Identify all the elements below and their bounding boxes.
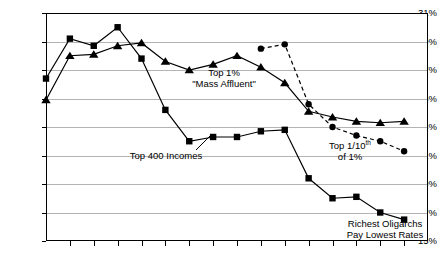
series-3 <box>258 41 408 154</box>
data-point-marker <box>282 127 288 133</box>
data-point-marker <box>280 79 289 86</box>
data-point-marker <box>353 132 359 138</box>
annotation-line-1: Top 1/10th <box>329 140 371 151</box>
annotation-line-1: Top 400 Incomes <box>130 150 202 161</box>
data-point-marker <box>305 101 311 107</box>
data-point-marker <box>114 24 120 30</box>
data-point-marker <box>329 124 335 130</box>
data-point-marker <box>258 128 264 134</box>
annotation-line-2: "Mass Affluent" <box>192 78 256 89</box>
data-point-marker <box>91 43 97 49</box>
data-point-marker <box>67 35 73 41</box>
annotation-line-1: Richest Oligarchs <box>347 218 424 229</box>
data-point-marker <box>186 138 192 144</box>
chart-container: 15%17%19%21%23%25%27%29%31% Top 1% "Mass… <box>0 0 437 253</box>
annotation-ordinal-suffix: th <box>366 139 371 146</box>
annotation-top-tenth-of-1-percent: Top 1/10th of 1% <box>329 140 371 162</box>
data-point-marker <box>305 175 311 181</box>
data-point-marker <box>353 194 359 200</box>
data-point-marker <box>304 107 313 114</box>
annotation-line-2: of 1% <box>329 151 371 162</box>
data-point-marker <box>329 195 335 201</box>
annotation-top-1-percent: Top 1% "Mass Affluent" <box>192 67 256 89</box>
data-point-marker <box>138 55 144 61</box>
data-point-marker <box>41 96 50 103</box>
data-point-marker <box>377 138 383 144</box>
data-point-marker <box>137 39 146 46</box>
annotation-top-400-incomes: Top 400 Incomes <box>130 150 202 161</box>
data-point-marker <box>43 75 49 81</box>
data-point-marker <box>232 52 241 59</box>
series-line <box>261 44 404 151</box>
data-point-marker <box>377 209 383 215</box>
data-point-marker <box>256 63 265 70</box>
annotation-line-1: Top 1% <box>192 67 256 78</box>
series-line <box>46 27 404 219</box>
annotation-leader-line <box>196 134 212 150</box>
data-point-marker <box>258 45 264 51</box>
data-point-marker <box>401 148 407 154</box>
data-point-marker <box>282 41 288 47</box>
annotation-richest-oligarchs: Richest Oligarchs Pay Lowest Rates <box>347 218 424 240</box>
data-point-marker <box>234 134 240 140</box>
data-point-marker <box>162 107 168 113</box>
annotation-line-2: Pay Lowest Rates <box>347 229 424 240</box>
annotation-line-1-text: Top 1/10 <box>329 140 365 151</box>
data-series-layer <box>0 0 437 253</box>
